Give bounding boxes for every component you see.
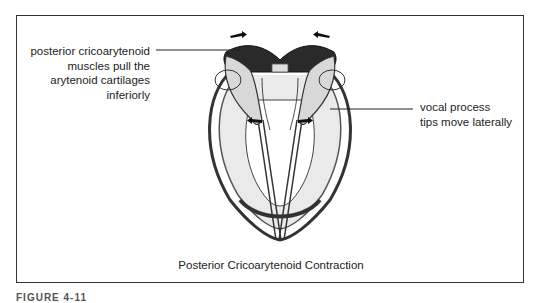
arrow-top-right-icon: [313, 31, 330, 38]
right-annotation: vocal process tips move laterally: [420, 100, 512, 129]
left-annotation-line: posterior cricoarytenoid: [28, 44, 150, 59]
right-annotation-line: vocal process: [420, 100, 512, 115]
figure-number-label: FIGURE 4-11: [16, 292, 87, 303]
figure-caption: Posterior Cricoarytenoid Contraction: [0, 259, 542, 271]
left-annotation-line: arytenoid cartilages: [28, 73, 150, 88]
left-annotation-line: inferiorly: [28, 88, 150, 103]
arrow-top-left-icon: [230, 31, 247, 38]
left-annotation-line: muscles pull the: [28, 59, 150, 74]
right-annotation-line: tips move laterally: [420, 115, 512, 130]
left-annotation: posterior cricoarytenoid muscles pull th…: [28, 44, 150, 102]
